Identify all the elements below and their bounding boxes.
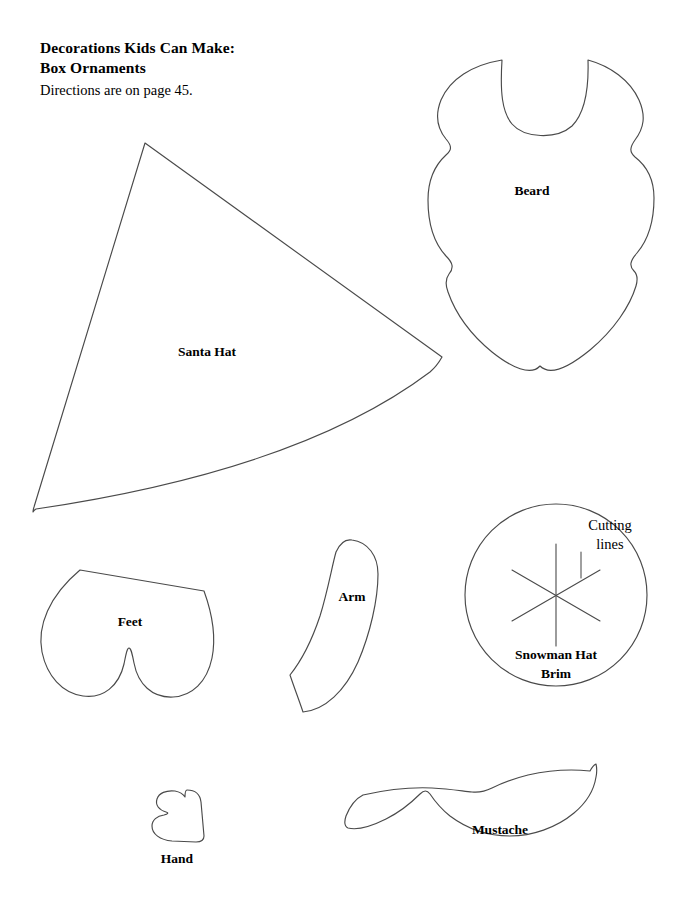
feet-outline [41, 570, 214, 697]
mustache-label: Mustache [472, 822, 528, 837]
beard-label: Beard [514, 183, 550, 198]
hand-outline [152, 790, 204, 842]
feet-label: Feet [118, 614, 143, 629]
arm-outline [290, 540, 378, 712]
snowman-hat-brim-label-line-2: Brim [541, 666, 572, 681]
snowman-hat-brim-label-line-1: Snowman Hat [515, 647, 598, 662]
shape-snowman-hat-brim: Cutting lines Snowman Hat Brim [465, 504, 647, 686]
mustache-outline [345, 764, 597, 836]
beard-outline [428, 60, 654, 370]
shape-santa-hat: Santa Hat [33, 143, 442, 512]
cutting-lines-annotation-line-2: lines [596, 536, 624, 552]
arm-label: Arm [339, 589, 367, 604]
santa-hat-outline [33, 143, 442, 512]
hand-label: Hand [161, 851, 194, 866]
cutting-lines-annotation-line-1: Cutting [588, 517, 632, 533]
craft-template-page: Decorations Kids Can Make: Box Ornaments… [0, 0, 692, 906]
template-shapes-canvas: Santa Hat Beard Feet Arm Cutting lines S… [0, 0, 692, 906]
shape-hand: Hand [152, 790, 204, 866]
shape-arm: Arm [290, 540, 378, 712]
shape-beard: Beard [428, 60, 654, 370]
shape-feet: Feet [41, 570, 214, 697]
santa-hat-label: Santa Hat [178, 344, 237, 359]
shape-mustache: Mustache [345, 764, 597, 837]
